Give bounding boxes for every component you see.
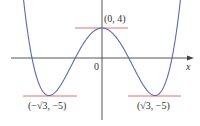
- label-local-min-left: (−√3, −5): [28, 101, 66, 111]
- label-x-axis: x: [186, 62, 190, 72]
- label-local-max: (0, 4): [104, 14, 126, 24]
- x-axis-arrow-icon: [187, 56, 194, 61]
- label-origin: 0: [94, 62, 99, 72]
- label-local-min-right: (√3, −5): [137, 101, 170, 111]
